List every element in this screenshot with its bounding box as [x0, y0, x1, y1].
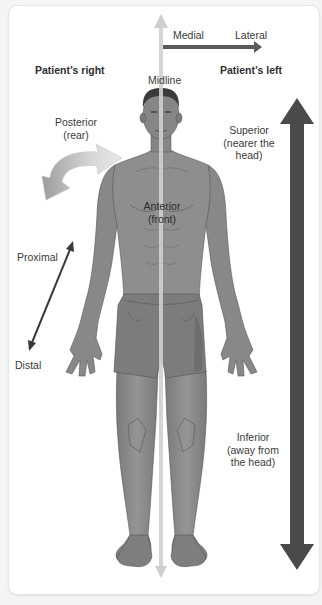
inferior-label: Inferior (away from the head) [219, 431, 287, 469]
superior-label: Superior (nearer the head) [214, 124, 284, 162]
patients-right-label: Patient’s right [35, 64, 105, 77]
superior-line2: (nearer the [214, 137, 284, 150]
superior-inferior-arrow-icon [280, 98, 314, 570]
inferior-line3: the head) [219, 456, 287, 469]
anterior-line2: (front) [138, 213, 186, 226]
anterior-line1: Anterior [138, 200, 186, 213]
medial-lateral-arrow-icon [163, 41, 262, 53]
anatomy-figure [0, 0, 322, 605]
proximal-label: Proximal [17, 251, 58, 264]
superior-line3: head) [214, 149, 284, 162]
midline-label: Midline [148, 74, 181, 87]
patients-left-label: Patient’s left [220, 64, 282, 77]
anterior-label: Anterior (front) [138, 200, 186, 225]
inferior-line1: Inferior [219, 431, 287, 444]
posterior-label: Posterior (rear) [52, 116, 100, 141]
posterior-line1: Posterior [52, 116, 100, 129]
posterior-line2: (rear) [52, 129, 100, 142]
lateral-label: Lateral [235, 29, 267, 42]
inferior-line2: (away from [219, 444, 287, 457]
medial-label: Medial [173, 29, 204, 42]
distal-label: Distal [15, 359, 41, 372]
superior-line1: Superior [214, 124, 284, 137]
